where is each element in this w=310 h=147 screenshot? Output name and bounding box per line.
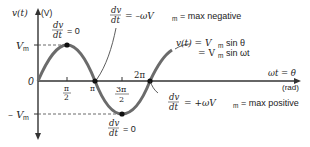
svg-text:= max negative: = max negative bbox=[180, 11, 241, 21]
x-axis-label: ωt = θ bbox=[268, 68, 296, 78]
svg-text:dt: dt bbox=[169, 102, 178, 112]
svg-text:= 0: = 0 bbox=[123, 124, 136, 134]
sine-wave-diagram: v(t) (V) V m – V m 0 π 2 π 3π 2 2π ωt = … bbox=[0, 0, 310, 147]
two-pi-derivative-annotation: dv dt = +ωV m = max positive bbox=[168, 92, 299, 112]
y-axis-unit: (V) bbox=[41, 8, 53, 18]
svg-text:dv: dv bbox=[111, 5, 121, 15]
svg-text:= 0: = 0 bbox=[67, 26, 80, 36]
svg-text:dv: dv bbox=[53, 20, 63, 30]
tick-3pi-over-2-num: 3π bbox=[116, 85, 126, 94]
svg-text:m: m bbox=[172, 15, 177, 22]
pi-point bbox=[92, 78, 97, 83]
svg-text:dv: dv bbox=[169, 92, 179, 102]
max-point bbox=[64, 42, 69, 47]
svg-text:= –ωV: = –ωV bbox=[125, 11, 155, 21]
svg-text:dv: dv bbox=[109, 118, 119, 128]
svg-text:v(t) = V: v(t) = V bbox=[176, 38, 213, 48]
origin-label: 0 bbox=[28, 76, 34, 87]
svg-text:m: m bbox=[218, 42, 223, 49]
tick-pi-over-2-den: 2 bbox=[64, 93, 69, 102]
max-derivative-annotation: dv dt = 0 bbox=[52, 20, 80, 40]
svg-text:dt: dt bbox=[111, 15, 120, 25]
tick-3pi-over-2-den: 2 bbox=[119, 95, 124, 104]
svg-text:= +ωV: = +ωV bbox=[184, 98, 217, 108]
neg-vm-sub: m bbox=[23, 114, 29, 121]
svg-text:= max positive: = max positive bbox=[241, 98, 299, 108]
tick-pi-over-2-num: π bbox=[64, 84, 69, 93]
svg-text:sin θ: sin θ bbox=[226, 38, 245, 48]
svg-text:dt: dt bbox=[109, 128, 118, 138]
tick-pi: π bbox=[90, 84, 95, 93]
tick-2pi: 2π bbox=[134, 70, 145, 80]
y-axis-arrow-down-icon bbox=[35, 133, 41, 140]
min-derivative-annotation: dv dt = 0 bbox=[108, 118, 136, 138]
svg-text:dt: dt bbox=[53, 30, 62, 40]
pi-leader-line bbox=[97, 28, 116, 79]
pi-derivative-annotation: dv dt = –ωV m = max negative bbox=[110, 5, 241, 25]
svg-text:m: m bbox=[218, 52, 223, 59]
svg-text:m: m bbox=[233, 102, 238, 109]
min-point bbox=[119, 111, 124, 116]
vm-sub: m bbox=[23, 45, 29, 52]
equation-annotation: v(t) = V m sin θ = V m sin ωt bbox=[176, 38, 250, 59]
svg-text:sin ωt: sin ωt bbox=[226, 48, 250, 58]
y-axis-label: v(t) bbox=[12, 8, 28, 18]
x-axis-unit: (rad) bbox=[282, 83, 299, 92]
svg-text:= V: = V bbox=[198, 48, 215, 58]
